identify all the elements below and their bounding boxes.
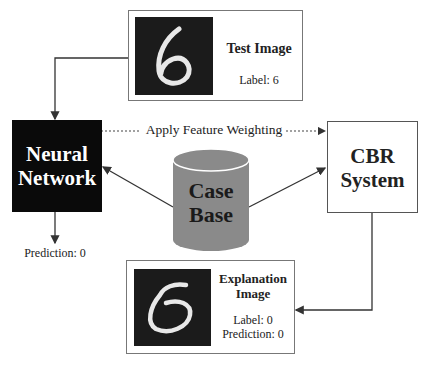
case-base-line2: Base <box>173 202 249 228</box>
nn-prediction: Prediction: 0 <box>5 246 105 261</box>
explanation-prediction: Prediction: 0 <box>211 327 295 342</box>
neural-network-title-line2: Network <box>12 166 102 191</box>
test-image-panel: Test Image Label: 6 <box>128 10 303 101</box>
case-base-line1: Case <box>173 178 249 204</box>
explanation-image-panel: Explanation Image Label: 0 Prediction: 0 <box>126 260 295 354</box>
explanation-title-line1: Explanation <box>211 271 295 287</box>
neural-network-title-line1: Neural <box>12 142 102 167</box>
feature-weighting-label: Apply Feature Weighting <box>142 122 286 138</box>
cbr-title-line1: CBR <box>328 144 417 169</box>
neural-network-block: Neural Network <box>12 120 102 212</box>
test-image-title: Test Image <box>215 41 303 57</box>
cbr-title-line2: System <box>328 168 417 193</box>
explanation-label: Label: 0 <box>211 313 295 328</box>
digit-explanation-thumbnail <box>134 269 211 346</box>
digit-six-thumbnail <box>135 17 213 95</box>
cbr-system-block: CBR System <box>327 121 418 213</box>
explanation-title-line2: Image <box>211 286 295 302</box>
test-image-label: Label: 6 <box>215 73 303 88</box>
